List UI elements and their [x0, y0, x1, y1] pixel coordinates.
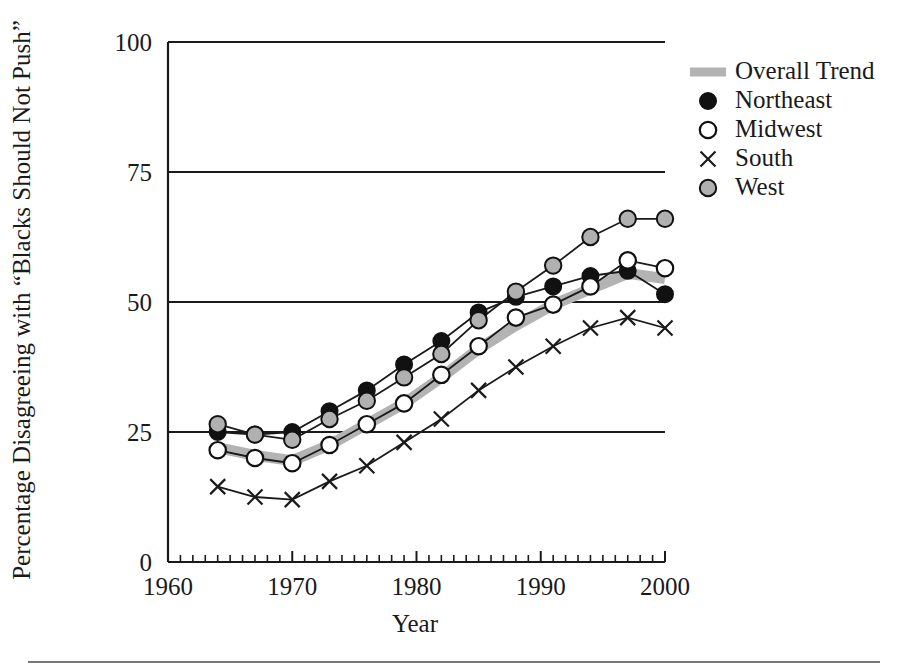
legend-swatch-x-icon [701, 152, 716, 167]
legend-swatch-gray-circle-icon [700, 180, 716, 196]
y-tick-label: 0 [140, 549, 153, 576]
x-axis-title: Year [392, 610, 439, 637]
x-tick-label: 1970 [267, 573, 317, 600]
data-point-marker [210, 442, 226, 458]
data-point-marker [620, 310, 635, 325]
legend-item-overall-trend: Overall Trend [690, 57, 875, 84]
data-point-marker [470, 312, 486, 328]
data-point-marker [247, 426, 263, 442]
data-point-marker [470, 338, 486, 354]
data-point-marker [397, 435, 412, 450]
legend-item-northeast: Northeast [700, 86, 832, 113]
data-point-marker [210, 416, 226, 432]
y-tick-label: 100 [115, 29, 153, 56]
x-tick-label: 1960 [143, 573, 193, 600]
data-point-marker [657, 286, 673, 302]
data-point-marker [396, 369, 412, 385]
data-point-marker [582, 278, 598, 294]
x-axis: 19601970198019902000 [143, 551, 690, 600]
legend-item-west: West [700, 173, 785, 200]
data-point-marker [508, 360, 523, 375]
chart-legend: Overall TrendNortheastMidwestSouthWest [690, 57, 875, 200]
data-point-marker [396, 395, 412, 411]
data-point-marker [434, 412, 449, 427]
data-point-marker [657, 260, 673, 276]
legend-item-south: South [701, 144, 794, 171]
data-point-marker [545, 278, 561, 294]
data-point-marker [620, 211, 636, 227]
data-point-marker [433, 346, 449, 362]
data-point-marker [247, 450, 263, 466]
data-point-marker [658, 321, 673, 336]
data-point-marker [657, 211, 673, 227]
y-axis-title: Percentage Disagreeing with “Blacks Shou… [8, 20, 35, 580]
data-point-marker [359, 393, 375, 409]
data-point-marker [620, 252, 636, 268]
data-point-marker [284, 455, 300, 471]
x-tick-label: 1990 [516, 573, 566, 600]
data-point-marker [545, 257, 561, 273]
data-point-marker [322, 474, 337, 489]
y-axis: 0255075100 [115, 29, 169, 576]
x-tick-label: 1980 [392, 573, 442, 600]
legend-swatch-open-circle-icon [700, 122, 716, 138]
y-tick-label: 50 [127, 289, 152, 316]
markers-west [210, 211, 674, 448]
data-point-marker [583, 321, 598, 336]
data-point-marker [284, 432, 300, 448]
data-point-marker [359, 416, 375, 432]
data-point-marker [545, 296, 561, 312]
x-tick-label: 2000 [640, 573, 690, 600]
legend-item-midwest: Midwest [700, 115, 823, 142]
data-point-marker [210, 479, 225, 494]
legend-label: Midwest [735, 115, 823, 142]
series-line [218, 219, 665, 440]
legend-label: Northeast [735, 86, 832, 113]
data-point-marker [546, 339, 561, 354]
legend-label: West [735, 173, 784, 200]
y-tick-label: 75 [127, 159, 152, 186]
series-west [218, 219, 665, 440]
data-point-marker [508, 309, 524, 325]
chart-figure: 0255075100 19601970198019902000 Year Per… [0, 0, 898, 671]
legend-swatch-filled-circle-icon [700, 93, 716, 109]
line-chart-canvas: 0255075100 19601970198019902000 Year Per… [0, 0, 898, 671]
legend-label: Overall Trend [735, 57, 875, 84]
data-point-marker [321, 437, 337, 453]
legend-label: South [735, 144, 794, 171]
data-point-marker [321, 411, 337, 427]
data-point-marker [433, 367, 449, 383]
data-point-marker [582, 229, 598, 245]
data-point-marker [471, 383, 486, 398]
y-tick-label: 25 [127, 419, 152, 446]
plot-series-group [210, 211, 674, 508]
data-point-marker [359, 458, 374, 473]
data-point-marker [508, 283, 524, 299]
